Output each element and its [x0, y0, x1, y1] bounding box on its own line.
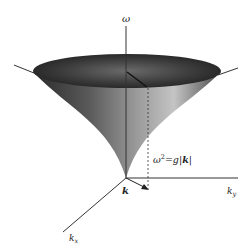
kx-axis	[63, 178, 126, 232]
kx-label-sub: x	[74, 237, 78, 245]
back-axis-right	[218, 68, 238, 75]
k-vector-label: k	[122, 185, 129, 196]
back-axis-left	[14, 65, 34, 73]
dispersion-diagram: ω ω2=g|k| k ky kx	[0, 0, 250, 248]
relation-end: |	[189, 154, 192, 166]
cone-rim	[33, 54, 221, 88]
kx-label: kx	[69, 233, 78, 245]
ky-label-sub: y	[231, 190, 236, 198]
relation-label: ω2=g|k|	[153, 153, 192, 166]
ky-label: ky	[227, 186, 236, 198]
relation-eq: =g|	[165, 154, 182, 166]
omega-label: ω	[122, 13, 130, 24]
